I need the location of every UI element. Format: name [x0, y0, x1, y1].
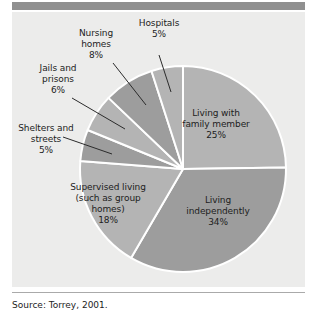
slice-label-hospitals: Hospitals 5%: [124, 18, 194, 40]
slice-label-living-with-family-member: Living with family member 25%: [170, 108, 262, 141]
pie-chart: Hospitals 5% Nursing homes 8% Jails and …: [0, 0, 316, 290]
slice-label-living-independently: Living independently 34%: [172, 195, 264, 228]
slice-label-jails-and-prisons: Jails and prisons 6%: [20, 63, 96, 96]
source-note: Source: Torrey, 2001.: [12, 299, 302, 311]
slice-label-shelters-and-streets: Shelters and streets 5%: [4, 123, 88, 156]
slice-label-nursing-homes: Nursing homes 8%: [61, 28, 131, 61]
figure-container: Hospitals 5% Nursing homes 8% Jails and …: [0, 0, 316, 319]
pie-slice-group: [80, 66, 286, 272]
footer-divider: [12, 292, 305, 293]
slice-label-supervised-living: Supervised living (such as group homes) …: [58, 182, 158, 226]
